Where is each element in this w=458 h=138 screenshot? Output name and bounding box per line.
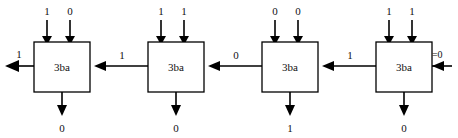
stage-2-output-label: 0 (173, 122, 179, 134)
stage-3-box-label: 3ba (282, 61, 298, 73)
stage-2-input-b-label: 1 (181, 5, 187, 17)
stage-1-output-label: 0 (59, 122, 65, 134)
stage-4-carry-label: 1 (347, 49, 353, 61)
stage-3-output-label: 1 (287, 122, 293, 134)
stage-1-box-label: 3ba (54, 61, 70, 73)
stage-2-group: 1 1 3ba 0 1 (94, 5, 204, 134)
stage-2-carry-label: 1 (119, 49, 125, 61)
stage-4-input-a-label: 1 (386, 5, 392, 17)
stage-1-input-b-label: 0 (67, 5, 73, 17)
stage-2-output-arrowhead (171, 105, 181, 116)
stage-2-input-a-label: 1 (158, 5, 164, 17)
stage-4-carry-arrowhead (322, 61, 334, 71)
carry-in-suffix: =0 (432, 49, 443, 60)
stage-4-output-label: 0 (401, 122, 407, 134)
stage-4-output-arrowhead (399, 105, 409, 116)
final-carry-arrowhead (5, 60, 19, 72)
stage-3-group: 0 0 3ba 1 0 (208, 5, 318, 134)
stage-2-carry-arrowhead (94, 61, 106, 71)
stage-1-input-a-label: 1 (44, 5, 50, 17)
stage-2-box-label: 3ba (168, 61, 184, 73)
stage-1-group: 1 0 3ba 0 1 (5, 5, 90, 134)
stage-4-group: Cl1=0 1 1 3ba 0 1 (322, 5, 452, 134)
final-carry-label: 1 (16, 48, 22, 60)
stage-1-output-arrowhead (57, 105, 67, 116)
stage-3-input-b-label: 0 (295, 5, 301, 17)
stage-4-input-b-label: 1 (409, 5, 415, 17)
stage-4-box-label: 3ba (396, 61, 412, 73)
adder-chain-diagram: Cl1=0 1 1 3ba 0 1 0 (0, 0, 458, 138)
carry-in-arrowhead (432, 61, 444, 71)
stage-3-input-a-label: 0 (272, 5, 278, 17)
stage-3-carry-arrowhead (208, 61, 220, 71)
stage-3-output-arrowhead (285, 105, 295, 116)
stage-3-carry-label: 0 (233, 49, 239, 61)
